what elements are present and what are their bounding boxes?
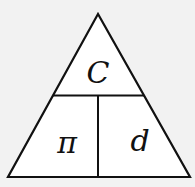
label-diameter: d <box>120 126 160 156</box>
formula-triangle <box>0 0 195 187</box>
label-pi: π <box>47 128 87 158</box>
label-circumference: C <box>78 58 118 88</box>
